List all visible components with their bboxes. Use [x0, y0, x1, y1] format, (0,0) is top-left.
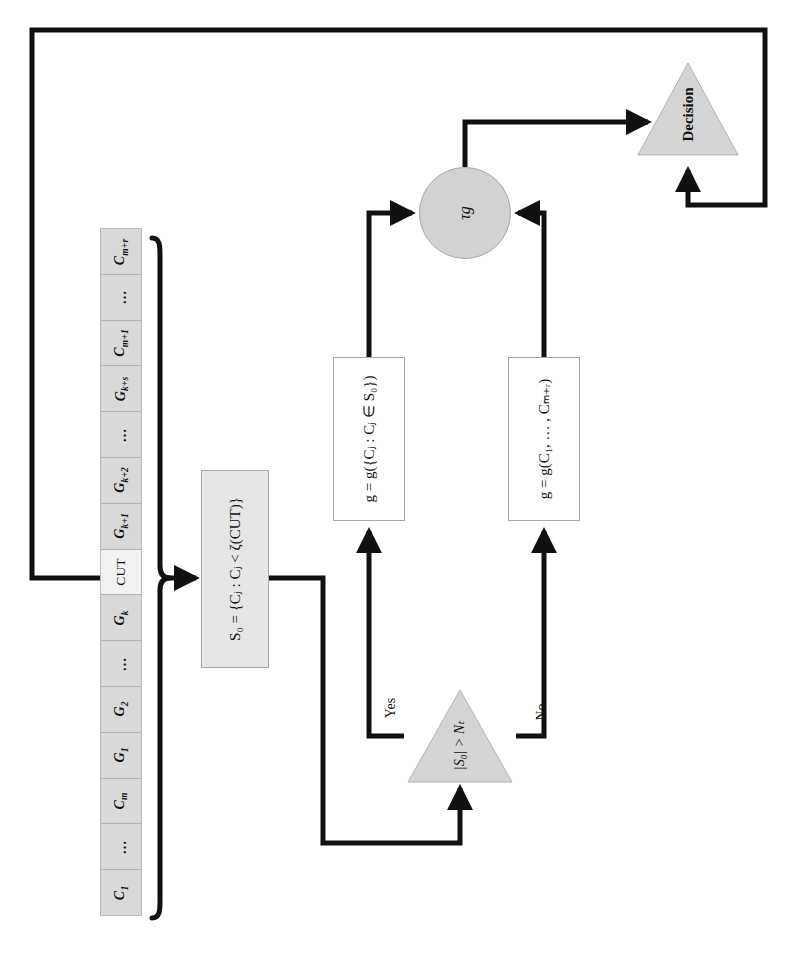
size-test-label: |S₀| > Nₜ [451, 720, 468, 769]
array-cell-label: … [113, 656, 129, 671]
array-cell-label: … [113, 290, 129, 305]
array-cell-label: Gk+2 [112, 467, 130, 493]
array-cell: … [101, 824, 141, 870]
array-cell-label: … [113, 427, 129, 442]
s0-definition-box[interactable]: S₀ = {Cⱼ : Cⱼ < ζ(CUT)} [201, 470, 269, 668]
edge-g-full-to-tau [518, 213, 544, 357]
decision-triangle[interactable]: Decision [638, 63, 738, 155]
g-full-box[interactable]: g = g(C₁, … , Cₘ₊ᵣ) [508, 357, 580, 521]
tau-g-node[interactable]: τg [419, 167, 511, 259]
branch-label-no-text: No [534, 703, 550, 720]
branch-label-no: No [533, 704, 550, 720]
array-cell-label: Cm+1 [112, 329, 130, 357]
array-cell[interactable]: C1 [101, 870, 141, 915]
array-cell: … [101, 412, 141, 458]
array-cell[interactable]: Cm+r [101, 229, 141, 275]
array-cell-label: Cm+r [112, 238, 130, 265]
array-cell[interactable]: Gk+1 [101, 504, 141, 550]
array-cell: … [101, 275, 141, 321]
size-test-triangle[interactable]: |S₀| > Nₜ [408, 690, 512, 782]
array-cell-label: Cm [112, 792, 130, 809]
edge-g-subset-to-tau [369, 213, 412, 357]
candidate-sequence-array: Cm+r … Cm+1 Gk+s … Gk+2 Gk+1 CUT Gk … G2 [100, 228, 142, 916]
array-cell[interactable]: Gk+s [101, 366, 141, 412]
array-cell-label: C1 [112, 885, 130, 900]
array-cell-label: Gk+1 [112, 513, 130, 539]
array-cell-label: Gk [112, 610, 130, 625]
array-cell[interactable]: Cm [101, 779, 141, 825]
array-cell-label: … [113, 839, 129, 854]
array-cell[interactable]: Gk [101, 595, 141, 641]
array-cell[interactable]: Gk+2 [101, 458, 141, 504]
array-cell-label: G2 [112, 702, 130, 717]
array-cell: … [101, 641, 141, 687]
s0-box-label: S₀ = {Cⱼ : Cⱼ < ζ(CUT)} [226, 497, 244, 641]
array-cell[interactable]: G1 [101, 733, 141, 779]
g-full-box-label: g = g(C₁, … , Cₘ₊ᵣ) [535, 379, 553, 499]
g-subset-box-label: g = g({Cⱼ : Cⱼ ∈ S₀}) [360, 375, 378, 502]
array-cell[interactable]: G2 [101, 687, 141, 733]
array-cell-label: CUT [113, 558, 129, 586]
array-cell-cut[interactable]: CUT [101, 550, 141, 596]
decision-label: Decision [679, 87, 696, 141]
flowchart-canvas: Cm+r … Cm+1 Gk+s … Gk+2 Gk+1 CUT Gk … G2 [0, 0, 790, 958]
array-cell-label: Gk+s [112, 376, 130, 401]
edge-tau-to-decision [465, 122, 648, 167]
branch-label-yes: Yes [381, 700, 401, 716]
branch-label-yes-text: Yes [383, 698, 399, 718]
tau-g-label: τg [456, 206, 474, 220]
array-cell-label: G1 [112, 748, 130, 763]
array-cell[interactable]: Cm+1 [101, 321, 141, 367]
g-subset-box[interactable]: g = g({Cⱼ : Cⱼ ∈ S₀}) [333, 357, 405, 521]
